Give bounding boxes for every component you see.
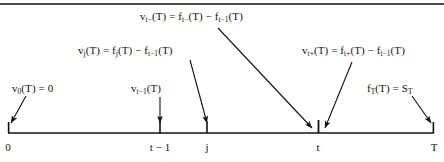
formula-v-t-plus-rhs-sub1: t+ bbox=[344, 49, 350, 58]
timeline-figure: vt−(T) = ft−(T) − ft−1(T) vj(T) = fj(T) … bbox=[0, 0, 444, 162]
formula-v-t-minus-rhs-var2: f bbox=[215, 10, 219, 22]
diagram-vector-layer bbox=[0, 0, 444, 162]
formula-v-t-minus-rhs-arg1: (T) − bbox=[188, 10, 214, 22]
formula-f-T: fT(T) = ST bbox=[367, 83, 413, 94]
formula-f-T-rhs-var1: S bbox=[402, 82, 408, 94]
formula-v-t-plus-lhs-sub: t+ bbox=[308, 49, 314, 58]
formula-v-j-lhs-var: v bbox=[78, 44, 84, 56]
arrow-vtplus-to-t bbox=[325, 62, 352, 128]
formula-v-t-plus-lhs-var: v bbox=[302, 44, 308, 56]
formula-v-t-minus-lhs-var: v bbox=[140, 10, 146, 22]
formula-v-j: vj(T) = fj(T) − ft−1(T) bbox=[78, 45, 172, 56]
formula-v-t-minus-1-lhs-arg: (T) bbox=[147, 82, 161, 94]
formula-v-t-minus: vt−(T) = ft−(T) − ft−1(T) bbox=[140, 11, 243, 22]
arrow-vj-to-j bbox=[190, 60, 207, 123]
formula-v-t-plus-rhs-arg2: (T) bbox=[391, 44, 405, 56]
formula-v-zero-lhs-arg: (T) = 0 bbox=[21, 82, 53, 94]
formula-v-t-minus-rhs-arg2: (T) bbox=[229, 10, 243, 22]
formula-v-zero-lhs-sub: 0 bbox=[18, 87, 22, 96]
arrow-fT-to-T bbox=[412, 96, 431, 123]
formula-v-t-plus-rhs-arg1: (T) − bbox=[350, 44, 376, 56]
formula-v-t-plus-rhs-var2: f bbox=[377, 44, 381, 56]
formula-v-t-plus-lhs-arg: (T) = bbox=[314, 44, 340, 56]
formula-f-T-rhs-sub1: T bbox=[408, 87, 413, 96]
axis-label-j: j bbox=[205, 142, 208, 153]
formula-v-t-minus-lhs-sub: t− bbox=[146, 15, 152, 24]
axis-label-T: T bbox=[431, 142, 438, 153]
formula-v-j-rhs-arg2: (T) bbox=[158, 44, 172, 56]
formula-v-j-rhs-sub2: t−1 bbox=[148, 49, 158, 58]
formula-v-t-minus-1-lhs-sub: t−1 bbox=[137, 87, 147, 96]
axis-label-t: t bbox=[316, 142, 319, 153]
formula-v-j-lhs-sub: j bbox=[84, 49, 86, 58]
formula-v-j-rhs-arg1: (T) − bbox=[118, 44, 144, 56]
formula-v-t-plus-rhs-sub2: t−1 bbox=[381, 49, 391, 58]
axis-label-zero: 0 bbox=[5, 142, 11, 153]
formula-v-t-minus-1-lhs-var: v bbox=[131, 82, 137, 94]
formula-v-zero: v0(T) = 0 bbox=[12, 83, 53, 94]
arrow-v0-to-zero bbox=[11, 96, 26, 123]
formula-v-t-minus-1: vt−1(T) bbox=[131, 83, 161, 94]
formula-f-T-lhs-arg: (T) = bbox=[375, 82, 401, 94]
formula-v-zero-lhs-var: v bbox=[12, 82, 18, 94]
formula-f-T-lhs-sub: T bbox=[371, 87, 376, 96]
formula-v-t-plus: vt+(T) = ft+(T) − ft−1(T) bbox=[302, 45, 405, 56]
formula-v-t-minus-lhs-arg: (T) = bbox=[152, 10, 178, 22]
formula-v-t-minus-rhs-sub2: t−1 bbox=[219, 15, 229, 24]
arrow-vtminus-to-t bbox=[218, 28, 312, 128]
formula-v-j-lhs-arg: (T) = bbox=[86, 44, 112, 56]
axis-label-t-minus-1: t − 1 bbox=[150, 142, 170, 153]
formula-v-t-minus-rhs-sub1: t− bbox=[182, 15, 188, 24]
formula-v-j-rhs-sub1: j bbox=[116, 49, 118, 58]
